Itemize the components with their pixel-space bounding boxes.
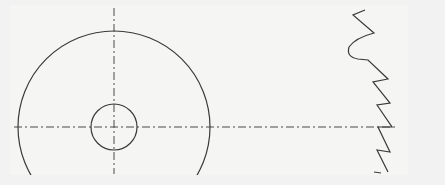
tooth-tick	[374, 172, 381, 173]
drawing-canvas	[0, 0, 445, 185]
gear-drawing	[0, 0, 445, 185]
tooth-profile	[348, 10, 392, 172]
